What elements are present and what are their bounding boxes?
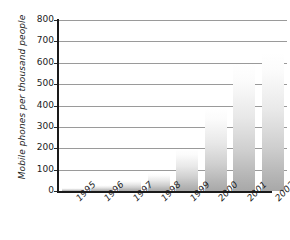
- x-axis-tick-label: 2001: [245, 179, 269, 203]
- x-axis-tick-label: 2002: [273, 179, 290, 203]
- x-axis-tick-label: 1998: [159, 179, 183, 203]
- x-axis-tick-label: 1995: [74, 179, 98, 203]
- x-axis-tick-label: 1999: [188, 179, 212, 203]
- x-axis-tick-label: 2000: [216, 179, 240, 203]
- x-axis-tick-label: 1996: [102, 179, 126, 203]
- bar-chart: Mobile phones per thousand people 010020…: [0, 0, 290, 240]
- x-axis-tick-labels: 19951996199719981999200020012002: [0, 0, 290, 240]
- x-axis-tick-label: 1997: [131, 179, 155, 203]
